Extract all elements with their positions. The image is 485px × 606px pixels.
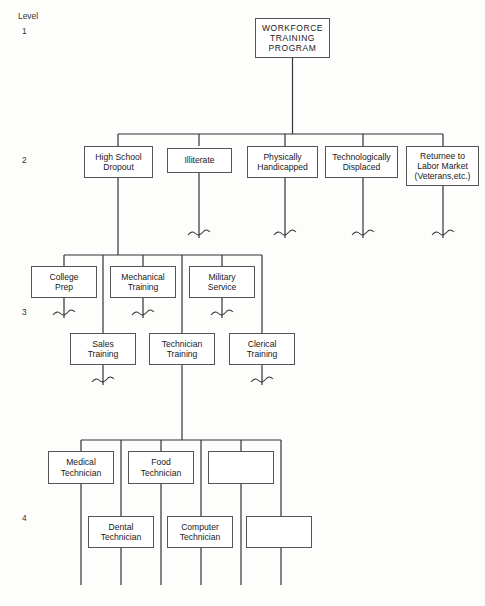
node-high-school-dropout[interactable]: High School Dropout — [84, 146, 153, 178]
node-text-line: TRAINING — [270, 33, 315, 43]
node-text-line: Illiterate — [184, 155, 214, 165]
level-1-label-number: 1 — [22, 26, 27, 36]
node-text-line: Returnee to — [420, 151, 465, 161]
node-text-line: Prep — [55, 282, 73, 292]
node-text-line: Mechanical — [121, 272, 164, 282]
level-4-label-number: 4 — [22, 513, 27, 523]
node-text-line: Service — [208, 282, 237, 292]
node-mechanical-training[interactable]: Mechanical Training — [110, 266, 176, 298]
node-text-line: Dental — [109, 522, 134, 532]
node-text-line: Labor Market — [417, 161, 468, 171]
node-text-line: Technician — [61, 468, 102, 478]
node-returnee-to-labor-market[interactable]: Returnee to Labor Market (Veterans,etc.) — [406, 146, 479, 186]
node-food-technician[interactable]: Food Technician — [128, 451, 194, 484]
node-text-line: Food — [151, 457, 171, 467]
level-2-label-number: 2 — [22, 155, 27, 165]
level-3-label-number: 3 — [22, 307, 27, 317]
node-college-prep[interactable]: College Prep — [31, 266, 97, 298]
node-text-line: Technician — [162, 339, 203, 349]
node-text-line: Technician — [101, 532, 142, 542]
node-illiterate[interactable]: Illiterate — [167, 148, 232, 173]
node-empty-box-bottom[interactable] — [246, 516, 312, 548]
node-sales-training[interactable]: Sales Training — [70, 333, 136, 365]
node-empty-box-top[interactable] — [208, 451, 274, 484]
node-text-line: Training — [128, 282, 159, 292]
node-text-line: WORKFORCE — [262, 23, 323, 33]
node-text-line: Military — [208, 272, 235, 282]
node-text-line: Training — [247, 349, 278, 359]
node-technician-training[interactable]: Technician Training — [149, 333, 215, 365]
level-1-label-word: Level — [18, 11, 38, 21]
node-text-line: Clerical — [248, 339, 277, 349]
node-text-line: Dropout — [103, 162, 134, 172]
node-text-line: High School — [95, 152, 141, 162]
workforce-training-program-diagram: Level 1 2 3 4 WORKFORCE TRAINING PROGRAM… — [0, 0, 485, 606]
node-text-line: Training — [88, 349, 119, 359]
node-text-line: Displaced — [343, 162, 381, 172]
node-text-line: Handicapped — [257, 162, 308, 172]
node-text-line: Computer — [181, 522, 219, 532]
node-text-line: (Veterans,etc.) — [415, 171, 471, 181]
node-workforce-training-program[interactable]: WORKFORCE TRAINING PROGRAM — [255, 18, 330, 58]
node-medical-technician[interactable]: Medical Technician — [48, 451, 114, 484]
node-text-line: Technician — [180, 532, 221, 542]
node-clerical-training[interactable]: Clerical Training — [229, 333, 295, 365]
node-text-line: College — [49, 272, 78, 282]
node-text-line: Medical — [66, 457, 96, 467]
node-text-line: Sales — [92, 339, 114, 349]
node-computer-technician[interactable]: Computer Technician — [167, 516, 233, 548]
node-technologically-displaced[interactable]: Technologically Displaced — [325, 146, 398, 178]
node-military-service[interactable]: Military Service — [189, 266, 255, 298]
node-dental-technician[interactable]: Dental Technician — [88, 516, 154, 548]
node-text-line: Training — [167, 349, 198, 359]
node-text-line: Physically — [263, 152, 301, 162]
node-physically-handicapped[interactable]: Physically Handicapped — [247, 146, 318, 178]
node-text-line: PROGRAM — [269, 43, 317, 53]
node-text-line: Technician — [141, 468, 182, 478]
node-text-line: Technologically — [332, 152, 390, 162]
connector-lines-layer — [0, 0, 485, 606]
